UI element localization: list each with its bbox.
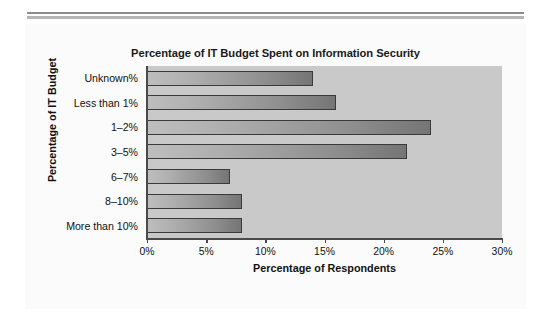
chart-title: Percentage of IT Budget Spent on Informa… [25, 47, 526, 59]
bar-slot [147, 91, 502, 116]
x-tick-label: 20% [373, 246, 394, 257]
bar-slot [147, 140, 502, 165]
figure: Percentage of IT Budget Spent on Informa… [0, 0, 551, 321]
rule-thick [27, 16, 524, 19]
x-tick-label: 30% [492, 246, 513, 257]
x-tick-label: 5% [199, 246, 214, 257]
x-axis-tick [147, 238, 148, 243]
y-tick-label: Less than 1% [25, 91, 143, 116]
bar-slot [147, 115, 502, 140]
x-tick-label: 25% [432, 246, 453, 257]
y-tick-label: 6–7% [25, 164, 143, 189]
x-axis-title: Percentage of Respondents [147, 262, 502, 274]
x-axis-tick [325, 238, 326, 243]
x-tick-label: 0% [139, 246, 154, 257]
y-tick-label: 8–10% [25, 189, 143, 214]
bar-slot [147, 189, 502, 214]
rule-thin [27, 12, 524, 14]
bar[interactable] [146, 144, 407, 159]
x-axis-tick [502, 238, 503, 243]
bar[interactable] [146, 95, 336, 110]
bar-slot [147, 213, 502, 238]
x-axis-tick [443, 238, 444, 243]
x-axis-tick [265, 238, 266, 243]
y-axis-line [146, 66, 148, 239]
bar-series [147, 66, 502, 238]
x-axis-tick [206, 238, 207, 243]
plot-area [147, 66, 502, 238]
y-tick-label: 1–2% [25, 115, 143, 140]
x-tick-label: 10% [255, 246, 276, 257]
top-double-rule [27, 12, 524, 21]
x-axis-tick [384, 238, 385, 243]
x-tick-label: 15% [314, 246, 335, 257]
y-tick-label: 3–5% [25, 140, 143, 165]
y-tick-label: Unknown% [25, 66, 143, 91]
bar[interactable] [146, 218, 242, 233]
bar-slot [147, 164, 502, 189]
bar[interactable] [146, 120, 431, 135]
chart-card: Percentage of IT Budget Spent on Informa… [25, 24, 526, 309]
y-tick-label: More than 10% [25, 213, 143, 238]
bar[interactable] [146, 169, 230, 184]
bar[interactable] [146, 71, 313, 86]
y-axis-tick-labels: Unknown% Less than 1% 1–2% 3–5% 6–7% 8–1… [25, 66, 143, 238]
bar[interactable] [146, 194, 242, 209]
bar-slot [147, 66, 502, 91]
